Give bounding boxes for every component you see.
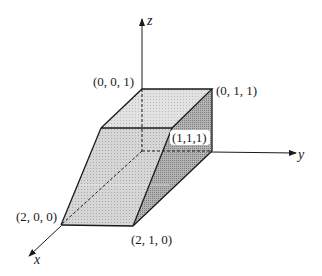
y-axis: [211, 152, 296, 153]
vertex-label-200: (2, 0, 0): [16, 209, 57, 224]
vertex-label-011: (0, 1, 1): [216, 83, 257, 98]
y-axis-label: y: [296, 147, 305, 162]
vertex-label-111: (1,1,1): [172, 130, 207, 145]
vertex-label-001: (0, 0, 1): [93, 74, 134, 89]
x-axis-label: x: [33, 252, 41, 267]
vertex-label-210: (2, 1, 0): [131, 232, 172, 247]
solid: [61, 89, 212, 226]
solid-diagram: z y x (0, 0, 1) (0, 1, 1) (1,1,1) (2, 0,…: [0, 0, 322, 276]
z-axis-label: z: [146, 13, 153, 28]
edge-bottom-front: [61, 225, 133, 226]
